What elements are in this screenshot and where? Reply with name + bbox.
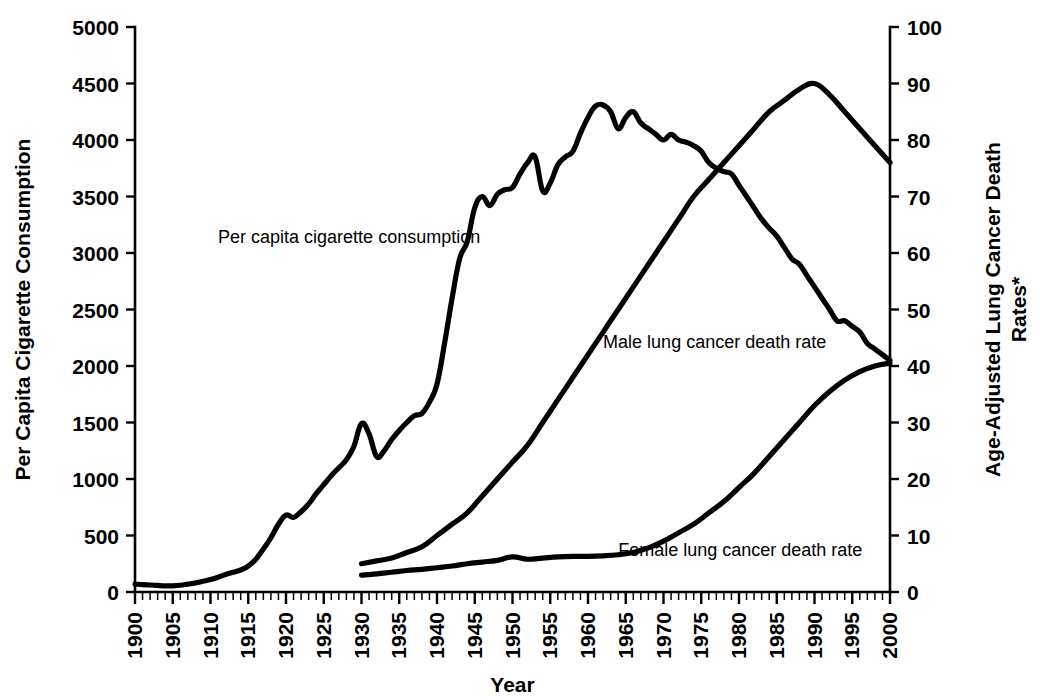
right-axis-tick-label: 40 xyxy=(907,355,930,378)
right-axis-tick-label: 80 xyxy=(907,129,930,152)
x-axis-tick-label: 1975 xyxy=(689,612,712,659)
x-axis-tick-label: 1930 xyxy=(350,612,373,659)
x-axis-tick-label: 1985 xyxy=(765,612,788,659)
right-axis-tick-label: 30 xyxy=(907,412,930,435)
annotation-female-death-rate: Female lung cancer death rate xyxy=(618,540,862,560)
x-axis-tick-label: 1925 xyxy=(312,612,335,659)
annotation-cigarette-consumption: Per capita cigarette consumption xyxy=(218,227,480,247)
right-axis-tick-label: 10 xyxy=(907,525,930,548)
x-axis-tick-label: 1920 xyxy=(274,612,297,659)
left-axis-tick-label: 4000 xyxy=(72,129,119,152)
x-axis-tick-label: 1940 xyxy=(425,612,448,659)
right-axis-tick-label: 20 xyxy=(907,468,930,491)
x-axis-tick-label: 1970 xyxy=(652,612,675,659)
right-axis-tick-label: 70 xyxy=(907,186,930,209)
x-axis-tick-label: 1945 xyxy=(463,612,486,659)
chart-plot-area: 0500100015002000250030003500400045005000… xyxy=(0,0,1040,700)
left-axis-tick-label: 2000 xyxy=(72,355,119,378)
x-axis-tick-label: 1990 xyxy=(803,612,826,659)
x-axis-tick-label: 1995 xyxy=(840,612,863,659)
x-axis-tick-label: 1980 xyxy=(727,612,750,659)
ticks-group xyxy=(126,27,899,604)
x-axis-tick-label: 1950 xyxy=(501,612,524,659)
x-axis-tick-label: 1910 xyxy=(199,612,222,659)
left-axis-tick-label: 1500 xyxy=(72,412,119,435)
left-axis-tick-label: 500 xyxy=(84,525,119,548)
left-axis-tick-label: 1000 xyxy=(72,468,119,491)
x-axis-tick-label: 1935 xyxy=(387,612,410,659)
series-line-male-death-rate xyxy=(362,83,891,563)
left-axis-tick-label: 4500 xyxy=(72,73,119,96)
axes-group xyxy=(135,27,890,592)
x-axis-tick-label: 1965 xyxy=(614,612,637,659)
x-axis-tick-label: 1905 xyxy=(161,612,184,659)
right-axis-tick-label: 50 xyxy=(907,299,930,322)
x-axis-tick-label: 1900 xyxy=(123,612,146,659)
left-axis-title: Per Capita Cigarette Consumption xyxy=(11,139,34,481)
left-axis-tick-label: 0 xyxy=(107,581,119,604)
left-axis-tick-label: 3500 xyxy=(72,186,119,209)
x-axis-title: Year xyxy=(490,673,534,696)
annotation-male-death-rate: Male lung cancer death rate xyxy=(603,332,826,352)
right-axis-tick-label: 60 xyxy=(907,242,930,265)
x-axis-tick-label: 1915 xyxy=(236,612,259,659)
right-axis-tick-label: 90 xyxy=(907,73,930,96)
left-axis-tick-label: 3000 xyxy=(72,242,119,265)
left-axis-tick-label: 2500 xyxy=(72,299,119,322)
right-axis-tick-label: 100 xyxy=(907,16,942,39)
right-axis-tick-label: 0 xyxy=(907,581,919,604)
lung-cancer-cigarette-chart: 0500100015002000250030003500400045005000… xyxy=(0,0,1040,700)
x-axis-tick-label: 2000 xyxy=(878,612,901,659)
x-axis-tick-label: 1960 xyxy=(576,612,599,659)
left-axis-tick-label: 5000 xyxy=(72,16,119,39)
right-axis-title-line1: Age-Adjusted Lung Cancer Death xyxy=(981,142,1004,477)
right-axis-title-line2: Rates* xyxy=(1007,276,1030,342)
x-axis-tick-label: 1955 xyxy=(538,612,561,659)
series-annotations-group: Per capita cigarette consumptionMale lun… xyxy=(218,227,862,560)
